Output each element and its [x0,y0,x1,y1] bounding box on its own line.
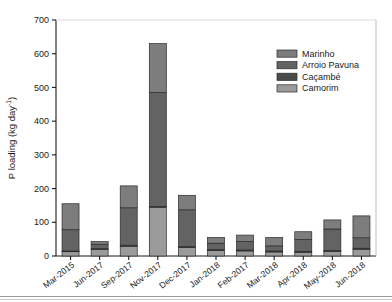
legend-swatch-Caçambé [277,73,297,80]
bar-Sep-2017[interactable] [120,186,137,256]
bar-May-2018[interactable] [324,220,341,256]
bar-Nov-2017[interactable] [149,44,166,256]
bar-segment-Marinho[interactable] [324,220,341,229]
figure-container: 0100200300400500600700 P loading (kg day… [0,0,392,302]
bar-segment-Camorim[interactable] [149,207,166,256]
y-axis-title: P loading (kg day-1) [5,97,17,179]
x-tick-label: Mar-2015 [41,260,76,291]
bar-segment-Camorim[interactable] [120,246,137,256]
x-tick-label: May-2018 [302,260,338,292]
bar-segment-Arroio Pavuna[interactable] [120,208,137,245]
bar-segment-Arroio Pavuna[interactable] [208,243,225,249]
bar-segment-Arroio Pavuna[interactable] [324,229,341,251]
bar-segment-Marinho[interactable] [208,237,225,243]
x-tick-label: Mar-2018 [245,260,280,291]
bar-segment-Arroio Pavuna[interactable] [295,239,312,251]
bar-segment-Marinho[interactable] [178,195,195,209]
legend-swatch-Camorim [277,85,297,92]
bar-segment-Camorim[interactable] [295,252,312,256]
bar-Dec-2017[interactable] [178,195,195,256]
bar-Jun-2017[interactable] [91,242,108,256]
bar-segment-Marinho[interactable] [266,237,283,245]
x-tick-label: Feb-2017 [216,260,251,291]
bar-segment-Camorim[interactable] [62,252,79,256]
y-tick-label: 400 [34,116,49,126]
x-tick-label: Sep-2017 [99,260,135,291]
y-axis-title-main: P loading (kg day [6,106,17,179]
bar-segment-Camorim[interactable] [266,252,283,256]
y-axis-title-end: ) [6,97,17,100]
x-tick-label: Jun-2018 [333,260,368,290]
bar-segment-Marinho[interactable] [120,186,137,208]
bar-segment-Camorim[interactable] [208,251,225,256]
bar-segment-Arroio Pavuna[interactable] [266,246,283,251]
bar-segment-Arroio Pavuna[interactable] [91,244,108,248]
bar-segment-Camorim[interactable] [91,250,108,256]
bar-segment-Arroio Pavuna[interactable] [62,230,79,251]
x-tick-label: Dec-2017 [157,260,193,291]
svg-text:P loading (kg day-1): P loading (kg day-1) [5,97,17,179]
x-tick-label: Nov-2017 [128,260,164,291]
bar-segment-Marinho[interactable] [149,44,166,93]
y-tick-label: 600 [34,49,49,59]
legend-label-Caçambé: Caçambé [302,72,341,82]
y-tick-label: 0 [44,251,49,261]
p-loading-stacked-bar-chart: 0100200300400500600700 P loading (kg day… [0,0,392,302]
bar-Jan-2018[interactable] [208,237,225,256]
bar-Mar-2018[interactable] [266,237,283,256]
x-axis-ticks: Mar-2015Jun-2017Sep-2017Nov-2017Dec-2017… [41,256,367,291]
legend-label-Arroio Pavuna: Arroio Pavuna [302,60,359,70]
bar-segment-Arroio Pavuna[interactable] [149,92,166,206]
y-tick-label: 200 [34,184,49,194]
bar-Feb-2017[interactable] [237,235,254,256]
bar-segment-Marinho[interactable] [353,216,370,238]
bar-segment-Arroio Pavuna[interactable] [237,242,254,250]
bar-Mar-2015[interactable] [62,204,79,256]
bar-segment-Marinho[interactable] [62,204,79,230]
legend-label-Marinho: Marinho [302,49,335,59]
y-tick-label: 700 [34,15,49,25]
footer-divider [0,296,392,297]
bar-segment-Arroio Pavuna[interactable] [178,210,195,247]
y-axis-ticks: 0100200300400500600700 [34,15,56,261]
bar-segment-Marinho[interactable] [237,235,254,241]
bar-segment-Camorim[interactable] [237,251,254,256]
bar-segment-Camorim[interactable] [353,249,370,256]
bar-segment-Marinho[interactable] [91,242,108,245]
legend-swatch-Arroio Pavuna [277,62,297,69]
bar-Apr-2018[interactable] [295,232,312,256]
legend-label-Camorim: Camorim [302,83,339,93]
y-tick-label: 100 [34,217,49,227]
bar-segment-Camorim[interactable] [178,248,195,256]
bar-segment-Marinho[interactable] [295,232,312,240]
y-tick-label: 300 [34,150,49,160]
bar-Jun-2018[interactable] [353,216,370,256]
bar-segment-Camorim[interactable] [324,251,341,256]
legend-swatch-Marinho [277,50,297,57]
footer-divider-secondary [0,299,392,300]
bar-segment-Arroio Pavuna[interactable] [353,238,370,248]
y-tick-label: 500 [34,83,49,93]
